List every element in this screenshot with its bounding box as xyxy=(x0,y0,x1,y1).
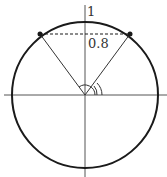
point-left xyxy=(38,32,43,37)
angle-arc-small-2 xyxy=(97,83,102,95)
radius-left xyxy=(40,34,85,95)
point-right xyxy=(128,32,133,37)
label-chord-length: 0.8 xyxy=(88,36,109,51)
unit-circle-diagram: 1 0.8 xyxy=(0,0,167,177)
label-one: 1 xyxy=(87,4,95,19)
